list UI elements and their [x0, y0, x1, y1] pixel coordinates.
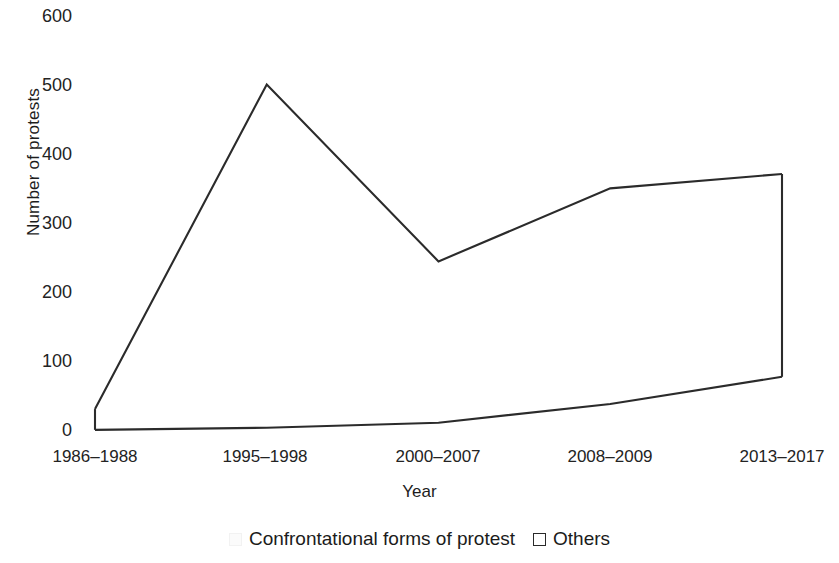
legend-label: Confrontational forms of protest: [249, 528, 515, 550]
series-line-confrontational: [95, 84, 782, 409]
legend-square-icon: [533, 533, 546, 546]
plot-area: [0, 0, 839, 563]
chart-figure: Number of protests 600 500 400 300 200 1…: [0, 0, 839, 563]
legend-label: Others: [553, 528, 610, 550]
legend-square-icon: [229, 533, 242, 546]
legend-item-others: Others: [533, 528, 610, 550]
series-line-others: [95, 377, 782, 430]
legend-item-confrontational: Confrontational forms of protest: [229, 528, 515, 550]
chart-legend: Confrontational forms of protest Others: [0, 528, 839, 550]
